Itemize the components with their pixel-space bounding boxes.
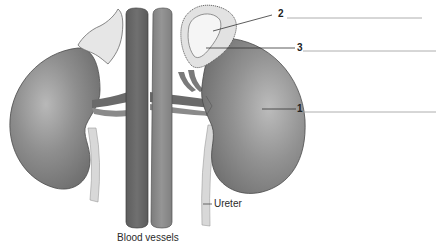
callout-1-number: 1: [297, 104, 303, 114]
answer-lines: [287, 18, 436, 112]
right-kidney: [202, 38, 306, 193]
ureter-label: Ureter: [214, 199, 242, 209]
blood-vessels-label: Blood vessels: [117, 233, 179, 243]
kidney-diagram: 2 3 1 Ureter Blood vessels: [0, 0, 442, 247]
callout-3-number: 3: [297, 43, 303, 53]
kidney-illustration: [0, 0, 442, 247]
left-kidney: [10, 48, 100, 189]
aorta: [151, 8, 172, 228]
callout-2-number: 2: [278, 9, 284, 19]
vena-cava: [126, 8, 148, 228]
